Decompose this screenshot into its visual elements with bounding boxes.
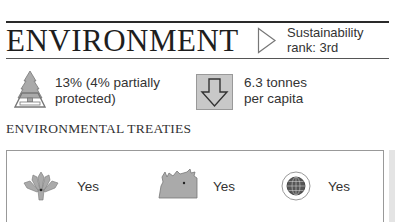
sustainability-rank: Sustainability rank: 3rd [287,25,364,55]
treaties-heading: ENVIRONMENTAL TREATIES [6,121,191,137]
treaties-box: Yes Yes Yes [6,150,384,222]
forest-cover: 13% (4% partially protected) [55,75,160,107]
down-arrow-icon [196,74,233,110]
co2-emissions: 6.3 tonnes per capita [244,75,307,107]
globe-icon [281,171,311,201]
rank-value: rank: 3rd [287,40,364,55]
rhino-icon [157,168,199,200]
page-edge [389,150,395,222]
tree-icon [13,69,47,109]
treaty-value: Yes [77,179,99,194]
treaty-value: Yes [213,179,235,194]
rank-label: Sustainability [287,25,364,40]
plant-icon [22,171,60,201]
triangle-right-icon [257,27,277,54]
page-title: ENVIRONMENT [6,24,239,58]
bottom-rule [6,58,389,59]
treaty-value: Yes [328,179,350,194]
